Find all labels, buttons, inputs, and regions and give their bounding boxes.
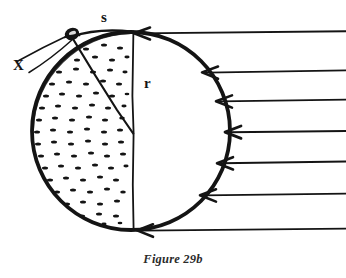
ray-line-3 [216, 95, 346, 107]
shaded-region [34, 44, 130, 226]
incoming-rays-group [134, 28, 346, 237]
point-label-x: X [13, 58, 24, 73]
x-leader-lines [17, 35, 73, 73]
radius-line [132, 32, 133, 230]
radius-label-r: r [144, 76, 151, 91]
figure-29b-diagram: s X r Figure 29b [0, 0, 346, 278]
chord-line [72, 37, 134, 134]
figure-caption: Figure 29b [0, 252, 346, 267]
ray-line-6 [200, 189, 346, 201]
ray-line-7 [137, 224, 346, 237]
ray-line-5 [217, 157, 346, 169]
ray-line-2 [202, 67, 346, 79]
rim-point-blob [63, 26, 81, 42]
diagram-canvas [0, 0, 346, 278]
circle-outline-accent [33, 33, 131, 130]
arc-length-label-s: s [101, 10, 107, 25]
ray-line-4 [225, 126, 346, 138]
